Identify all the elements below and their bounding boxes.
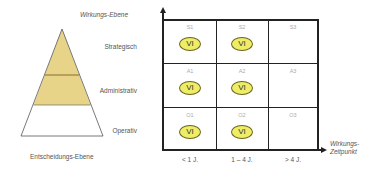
- matrix-cell-o3: O3: [268, 108, 318, 149]
- column-label-long: > 4 J.: [268, 156, 318, 163]
- cell-code: O2: [216, 112, 268, 118]
- x-axis-title-line1: Wirkungs-: [330, 140, 359, 147]
- y-axis-title: Wirkungs-Ebene: [80, 11, 128, 18]
- pyramid-tier-strategic: [45, 29, 79, 75]
- matrix-cell-a3: A3: [268, 64, 318, 107]
- column-label-medium: 1 – 4 J.: [216, 156, 268, 163]
- cell-code: S2: [216, 24, 268, 30]
- vi-marker: VI: [231, 81, 253, 95]
- matrix-cell-o1: O1 VI: [164, 108, 216, 149]
- cell-code: O1: [164, 112, 216, 118]
- cell-code: A3: [268, 68, 318, 74]
- cell-code: S3: [268, 24, 318, 30]
- matrix-cell-a2: A2 VI: [216, 64, 268, 107]
- vi-marker: VI: [231, 125, 253, 139]
- matrix-cell-s3: S3: [268, 20, 318, 63]
- level-label-strategic: Strategisch: [104, 43, 137, 50]
- vi-marker: VI: [179, 37, 201, 51]
- cell-code: O3: [268, 112, 318, 118]
- vi-marker: VI: [179, 125, 201, 139]
- pyramid-tier-administrative: [34, 75, 91, 105]
- cell-code: S1: [164, 24, 216, 30]
- x-axis-title-line2: Zeitpunkt: [330, 148, 357, 155]
- pyramid-tier-operative: [21, 105, 103, 136]
- pyramid-footer: Entscheidungs-Ebene: [30, 153, 94, 160]
- matrix-cell-s2: S2 VI: [216, 20, 268, 63]
- x-axis-arrow-icon: [321, 146, 329, 154]
- matrix-cell-s1: S1 VI: [164, 20, 216, 63]
- x-axis-line: [162, 149, 323, 151]
- vi-marker: VI: [231, 37, 253, 51]
- level-label-operative: Operativ: [112, 127, 137, 134]
- cell-code: A1: [164, 68, 216, 74]
- column-label-short: < 1 J.: [164, 156, 216, 163]
- vi-marker: VI: [179, 81, 201, 95]
- y-axis-arrow-icon: [159, 7, 167, 15]
- matrix-cell-o2: O2 VI: [216, 108, 268, 149]
- cell-code: A2: [216, 68, 268, 74]
- matrix-cell-a1: A1 VI: [164, 64, 216, 107]
- level-label-administrative: Administrativ: [100, 87, 137, 94]
